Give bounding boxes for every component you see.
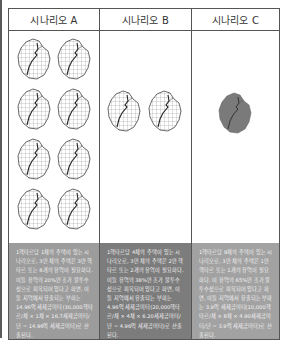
- watershed-grid-icon: [17, 137, 51, 181]
- watershed-grid-icon: [17, 187, 51, 231]
- scenario-a-watersheds: [9, 31, 99, 243]
- scenario-c-description: 1헥타르당 8채의 주택이 있는 시나리오로, 3만 채의 주택은 1만 헥타르…: [192, 243, 279, 339]
- watershed-grid-icon: [57, 37, 91, 81]
- scenario-a-header: 시나리오 A: [9, 9, 99, 31]
- watershed-grid-icon: [57, 87, 91, 131]
- watershed-solid-icon: [218, 91, 252, 135]
- watershed-grid-icon: [17, 87, 51, 131]
- page-edge: [0, 0, 2, 338]
- scenario-b-header: 시나리오 B: [100, 9, 191, 31]
- watershed-grid-icon: [57, 137, 91, 181]
- watershed-grid-icon: [57, 187, 91, 231]
- scenario-a-description: 1헥타르당 1채의 주택이 있는 시나리오로, 3만 채의 주택은 3만 헥타르…: [9, 243, 99, 339]
- scenario-b-column: 시나리오 B 1헥타르당 4채의 주택이 있는 시나리오로, 3만 채의 주택은…: [99, 9, 191, 339]
- watershed-grid-icon: [17, 37, 51, 81]
- scenario-c-watersheds: [192, 31, 279, 243]
- watershed-grid-icon: [148, 89, 182, 133]
- scenario-c-header: 시나리오 C: [192, 9, 279, 31]
- scenario-a-column: 시나리오 A 1헥타르당 1채의 주택이 있는 시나리오로, 3만 채의 주택은…: [9, 9, 99, 339]
- scenario-b-watersheds: [100, 31, 191, 243]
- scenario-b-description: 1헥타르당 4채의 주택이 있는 시나리오로, 3만 채의 주택은 2만 헥타르…: [100, 243, 191, 339]
- watershed-grid-icon: [107, 89, 141, 133]
- scenario-c-column: 시나리오 C 1헥타르당 8채의 주택이 있는 시나리오로, 3만 채의 주택은…: [191, 9, 279, 339]
- scenario-comparison-table: 시나리오 A 1헥타르당 1채의 주택이 있는 시나리오로, 3만 채의 주택은…: [8, 8, 280, 340]
